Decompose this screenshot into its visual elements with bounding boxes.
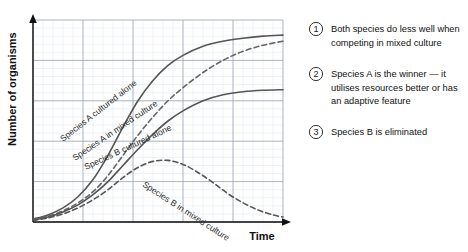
annotation-text-2-line-2: utilises resources better or has — [331, 83, 458, 93]
annotation-text-2-line-3: an adaptive feature — [331, 96, 411, 106]
competition-growth-curve-figure: Species A cultured alone Species A in mi… — [0, 0, 468, 252]
annotation-marker-2: 2 — [313, 69, 318, 79]
annotation-text-1-line-2: competing in mixed culture — [331, 38, 442, 48]
annotation-marker-3: 3 — [313, 127, 318, 137]
y-axis-title: Number of organisms — [6, 32, 18, 146]
annotation-text-3-line-1: Species B is eliminated — [331, 127, 427, 137]
annotation-marker-1: 1 — [313, 24, 318, 34]
annotation-text-1-line-1: Both species do less well when — [331, 24, 460, 34]
x-axis-title: Time — [249, 230, 274, 242]
annotation-text-2-line-1: Species A is the winner — it — [331, 69, 446, 79]
